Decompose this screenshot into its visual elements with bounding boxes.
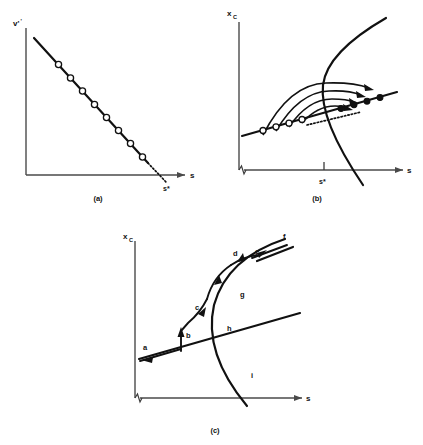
panel-a-marker: [67, 75, 73, 81]
panel-c-equilibrium-line: [139, 313, 300, 359]
panel-c-label-e: e: [255, 247, 259, 256]
panel-a-x-axis-label: s: [190, 171, 195, 180]
panel-b-transition-arcs: [263, 83, 374, 135]
panel-c-x-axis-label: s: [306, 394, 311, 403]
panel-a-marker: [127, 140, 133, 146]
panel-c: x C s: [107, 213, 323, 445]
panel-a-x-axis-arrowhead: [177, 172, 185, 178]
panel-c-plot: x C s: [107, 213, 323, 445]
panel-b-filled-marker: [377, 95, 383, 101]
panel-b-arc-arrowhead: [356, 91, 366, 98]
panel-a-marker: [79, 88, 85, 94]
panel-a: v' ' s s* (a): [0, 0, 211, 210]
panel-a-marker: [139, 154, 145, 160]
panel-b-x-axis-arrowhead: [395, 167, 403, 173]
panel-a-marker: [55, 61, 61, 67]
panel-c-label-h: h: [227, 324, 232, 333]
panel-a-caption: (a): [93, 194, 103, 203]
panel-c-caption: (c): [210, 426, 220, 435]
panel-a-extrapolation-line: [148, 163, 166, 182]
panel-c-label-g: g: [240, 290, 245, 299]
panel-b-open-marker: [273, 124, 279, 130]
panel-a-y-axis-label: v': [13, 19, 19, 28]
panel-b-open-marker: [299, 117, 305, 123]
panel-c-label-c: c: [195, 303, 199, 312]
panel-c-x-axis-arrowhead: [294, 395, 302, 401]
panel-c-y-axis-label-sub: C: [129, 237, 133, 243]
panel-c-label-d: d: [233, 249, 238, 258]
panel-b-filled-marker: [364, 98, 370, 104]
panel-c-trajectory-arrowhead-e: [237, 253, 245, 262]
panel-b-open-marker: [260, 128, 266, 134]
panel-a-y-axis-label-prime: ': [21, 18, 23, 24]
panel-b-filled-marker: [338, 106, 344, 112]
panel-c-spinodal-curve: [212, 239, 285, 406]
panel-b-y-axis-label: x: [227, 9, 232, 18]
panel-c-label-a: a: [143, 343, 148, 352]
panel-b-dotted-line: [307, 112, 361, 125]
panel-b-filled-marker: [351, 102, 357, 108]
panel-b-open-marker: [286, 120, 292, 126]
panel-a-plot: v' ' s s* (a): [0, 0, 211, 210]
figure-container: v' ' s s* (a): [0, 0, 423, 445]
panel-b-plot: x C s: [211, 0, 423, 210]
panel-b-x-axis-label: s: [407, 166, 412, 175]
panel-b-arc-arrowhead: [364, 84, 374, 91]
panel-c-label-b: b: [186, 331, 191, 340]
panel-a-marker: [115, 127, 121, 133]
panel-b-caption: (b): [312, 194, 322, 203]
panel-b: x C s: [211, 0, 423, 210]
panel-b-y-axis-label-sub: C: [233, 14, 237, 20]
panel-a-intercept-label: s*: [163, 185, 170, 192]
panel-c-label-i: i: [251, 371, 253, 380]
panel-a-marker: [103, 114, 109, 120]
panel-a-marker: [91, 101, 97, 107]
panel-b-tick-label: s*: [319, 178, 326, 185]
panel-c-y-axis-label: x: [123, 232, 128, 241]
